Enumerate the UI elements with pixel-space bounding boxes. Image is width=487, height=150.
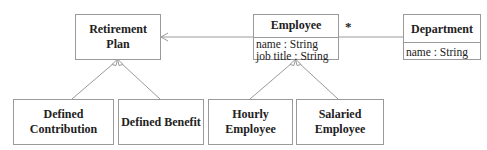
generalization-hourly-employee — [250, 63, 292, 99]
attribute: name : String — [254, 38, 338, 50]
generalization-defined-contribution — [72, 63, 114, 99]
attribute: job title : String — [254, 50, 338, 62]
generalization-salaried-employee — [299, 63, 338, 99]
class-defined-contribution[interactable]: Defined Contribution — [13, 99, 114, 145]
class-name: Defined Contribution — [14, 107, 113, 137]
class-hourly-employee[interactable]: Hourly Employee — [208, 99, 293, 145]
generalization-defined-benefit — [121, 63, 160, 99]
class-employee[interactable]: Employee name : String job title : Strin… — [253, 14, 339, 60]
class-retirement-plan[interactable]: Retirement Plan — [75, 14, 161, 60]
class-name: Employee — [254, 15, 338, 38]
attribute: name : String — [404, 43, 480, 61]
class-salaried-employee[interactable]: Salaried Employee — [296, 99, 384, 145]
class-department[interactable]: Department name : String — [403, 14, 481, 60]
class-name: Defined Benefit — [121, 115, 201, 130]
multiplicity-label: * — [345, 19, 352, 35]
class-name: Hourly Employee — [209, 107, 292, 137]
class-defined-benefit[interactable]: Defined Benefit — [118, 99, 204, 145]
class-name: Salaried Employee — [297, 107, 383, 137]
class-name: Department — [404, 15, 480, 43]
class-name: Retirement Plan — [76, 22, 160, 52]
